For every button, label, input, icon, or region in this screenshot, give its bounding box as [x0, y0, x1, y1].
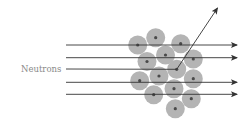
nucleus-core — [174, 107, 177, 110]
nucleus — [184, 50, 203, 69]
nucleus — [130, 71, 149, 90]
neutrons-label: Neutrons — [21, 64, 61, 74]
nucleus-core — [138, 79, 141, 82]
nucleus-core — [190, 97, 193, 100]
nuclei-group — [128, 28, 203, 118]
nucleus — [182, 89, 201, 108]
nucleus-core — [154, 36, 157, 39]
nucleus-core — [192, 77, 195, 80]
nucleus — [184, 69, 203, 88]
nucleus-core — [164, 53, 167, 56]
nucleus — [146, 28, 165, 47]
nucleus-core — [157, 74, 160, 77]
nucleus — [171, 34, 190, 53]
nucleus — [166, 99, 185, 118]
nucleus-core — [145, 60, 148, 63]
neutron-scattering-diagram: Neutrons — [0, 0, 251, 122]
nucleus-core — [172, 87, 175, 90]
